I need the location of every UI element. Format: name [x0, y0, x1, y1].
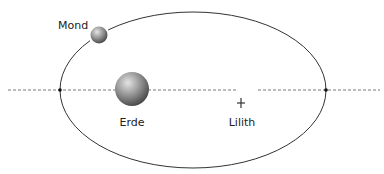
- lilith-symbol: [236, 77, 258, 108]
- orbit-diagram: Erde Mond Lilith: [0, 0, 384, 174]
- moon-label: Mond: [58, 19, 88, 32]
- lilith-label: Lilith: [229, 116, 256, 129]
- earth-sphere: [115, 72, 149, 106]
- perigee-point: [58, 88, 62, 92]
- moon-sphere: [91, 27, 108, 44]
- apogee-point: [324, 88, 328, 92]
- earth-label: Erde: [119, 116, 144, 129]
